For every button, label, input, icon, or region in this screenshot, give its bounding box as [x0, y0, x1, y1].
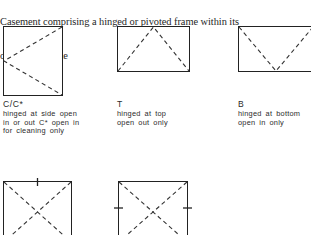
- caption-casement-top-hinged: T hinged at top open out only: [117, 99, 168, 127]
- caption-line-3: for cleaning only: [3, 127, 79, 136]
- pivot-cross-diagonals-icon: [118, 181, 188, 235]
- figure-casement-top-hinged: [117, 26, 190, 72]
- figure-casement-pivot-horizontal: [3, 181, 72, 235]
- figure-casement-side-hinged: [3, 26, 63, 96]
- figure-casement-pivot-vertical: [118, 181, 188, 235]
- figure-casement-bottom-hinged: [238, 26, 311, 72]
- caption-line-2: open in only: [238, 119, 300, 128]
- side-hinge-chevron-icon: [3, 26, 63, 96]
- caption-casement-bottom-hinged: B hinged at bottom open in only: [238, 99, 300, 127]
- pivot-cross-diagonals-icon: [3, 181, 72, 235]
- top-hinge-triangle-icon: [117, 26, 190, 72]
- bottom-hinge-vee-icon: [238, 26, 311, 72]
- caption-line-2: open out only: [117, 119, 168, 128]
- caption-casement-side-hinged: C/C* hinged at side open in or out C* op…: [3, 99, 79, 136]
